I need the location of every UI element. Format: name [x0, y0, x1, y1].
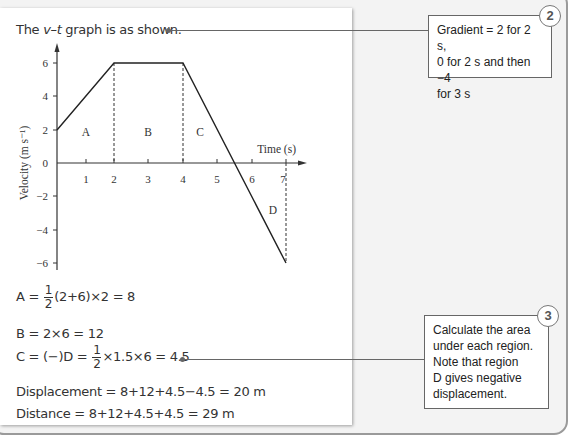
- note-box-area: Calculate the area under each region. No…: [424, 315, 549, 409]
- y-axis-arrow-icon: [55, 43, 60, 52]
- note-line: displacement.: [433, 386, 540, 402]
- xtick-label: 6: [249, 173, 255, 185]
- equation-distance: Distance = 8+12+4.5+4.5 = 29 m: [16, 406, 234, 421]
- ytick-label: 6: [43, 57, 49, 69]
- ytick-label: 4: [43, 90, 49, 102]
- equation-a-rhs: (2+6)×2 = 8: [54, 289, 135, 304]
- xtick-label: 1: [83, 173, 89, 185]
- ytick-label: −4: [36, 224, 48, 236]
- equation-displacement: Displacement = 8+12+4.5−4.5 = 20 m: [16, 384, 266, 399]
- vt-graph: 6 4 2 0 −2 −4 −6 1 2 3 4 5 6 7 Time (s) …: [0, 0, 352, 280]
- equation-b: B = 2×6 = 12: [16, 326, 104, 341]
- connector-line-3: [184, 359, 424, 360]
- x-axis-arrow-icon: [298, 161, 307, 166]
- region-label-c: C: [196, 126, 204, 138]
- xtick-label: 7: [280, 173, 286, 185]
- note-box-gradient: Gradient = 2 for 2 s, 0 for 2 s and then…: [428, 15, 552, 78]
- ytick-label: 0: [43, 157, 49, 169]
- note-line: for 3 s: [437, 86, 543, 102]
- note-line: under each region.: [433, 338, 540, 354]
- note-line: Calculate the area: [433, 322, 540, 338]
- equation-a: A = 12(2+6)×2 = 8: [16, 284, 135, 311]
- step-number-badge-3: 3: [537, 305, 559, 327]
- equation-c-rhs: ×1.5×6 = 4.5: [102, 349, 189, 364]
- note-line: 0 for 2 s and then −4: [437, 54, 543, 86]
- y-axis-label: Velocity (m s⁻¹): [18, 126, 31, 201]
- fraction-half: 12: [44, 284, 53, 311]
- region-label-d: D: [269, 204, 277, 216]
- xtick-label: 4: [180, 173, 186, 185]
- equation-a-lhs: A =: [16, 289, 43, 304]
- connector-line-2: [170, 30, 430, 31]
- ytick-label: −6: [36, 257, 48, 269]
- equation-c: C = (−)D = 12×1.5×6 = 4.5: [16, 344, 189, 371]
- step-number-badge-2: 2: [539, 5, 561, 27]
- xtick-label: 3: [145, 173, 151, 185]
- x-axis-label: Time (s): [257, 143, 296, 156]
- ytick-label: −2: [36, 190, 48, 202]
- region-label-b: B: [144, 126, 152, 138]
- note-line: D gives negative: [433, 370, 540, 386]
- xtick-label: 5: [214, 173, 220, 185]
- equation-c-lhs: C = (−)D =: [16, 349, 91, 364]
- ytick-label: 2: [43, 124, 49, 136]
- note-line: Gradient = 2 for 2 s,: [437, 22, 543, 54]
- note-line: Note that region: [433, 354, 540, 370]
- xtick-label: 2: [111, 173, 117, 185]
- region-label-a: A: [82, 126, 91, 138]
- fraction-half: 12: [92, 344, 101, 371]
